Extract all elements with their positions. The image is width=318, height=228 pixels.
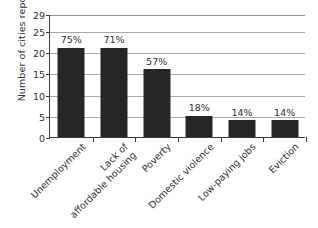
bar[interactable]	[271, 120, 298, 137]
bar-value-label: 14%	[231, 107, 252, 118]
bar-value-label: 57%	[146, 56, 167, 67]
bar-slot: 14%	[221, 15, 264, 137]
plot-area: 051015202529 75%71%57%18%14%14%	[49, 15, 305, 138]
y-axis-title: Number of cities reporting	[16, 0, 27, 103]
bar[interactable]	[186, 116, 213, 137]
bar-value-label: 18%	[189, 102, 210, 113]
bar-slot: 14%	[263, 15, 306, 137]
bar-slot: 18%	[178, 15, 221, 137]
y-axis-tick-label: 20	[33, 48, 45, 59]
bar-value-label: 75%	[61, 34, 82, 45]
bars-group: 75%71%57%18%14%14%	[50, 15, 305, 137]
bar-chart: Number of cities reporting 051015202529 …	[0, 0, 318, 228]
bar[interactable]	[228, 120, 255, 137]
y-axis-tick-label: 10	[33, 90, 45, 101]
bar[interactable]	[58, 48, 85, 137]
bar-slot: 57%	[135, 15, 178, 137]
y-axis-tick-label: 25	[33, 26, 45, 37]
y-axis-tick-label: 5	[39, 111, 45, 122]
y-axis-tick-label: 15	[33, 69, 45, 80]
bar-slot: 71%	[93, 15, 136, 137]
x-axis-labels-group: UnemploymentLack of affordable housingPo…	[0, 139, 318, 228]
bar-value-label: 71%	[103, 34, 124, 45]
y-axis-tick-label: 29	[33, 10, 45, 21]
bar-value-label: 14%	[274, 107, 295, 118]
bar[interactable]	[143, 69, 170, 137]
bar-slot: 75%	[50, 15, 93, 137]
bar[interactable]	[100, 48, 127, 137]
